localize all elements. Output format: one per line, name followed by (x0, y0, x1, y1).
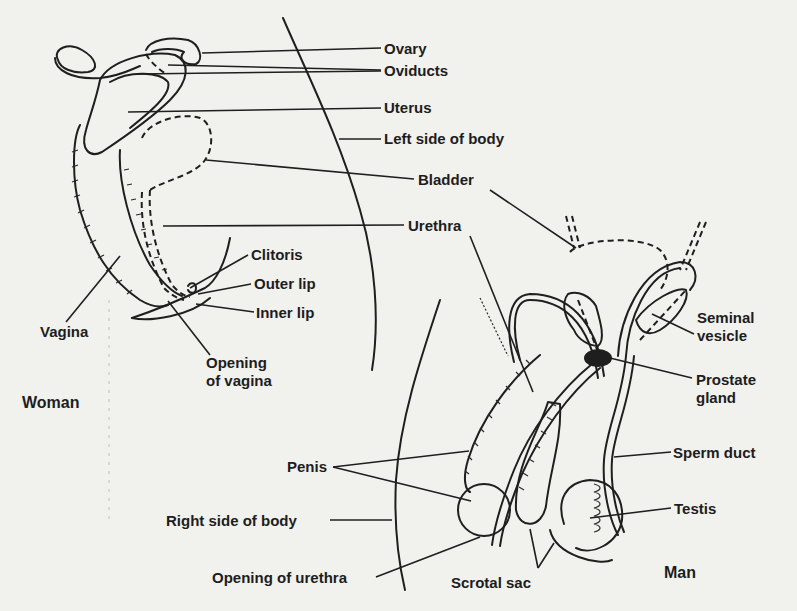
label-penis: Penis (287, 458, 327, 475)
right-ovary-shape (146, 38, 200, 64)
label-testis: Testis (674, 500, 716, 517)
label-seminal-vesicle-line1: Seminal (697, 309, 755, 326)
label-uterus: Uterus (384, 99, 432, 116)
leader-opening-urethra (376, 537, 480, 577)
leader-sperm-duct (614, 452, 671, 457)
epididymis-coil (594, 484, 600, 532)
sperm-duct-right-top (618, 262, 695, 356)
leader-urethra-man (470, 236, 533, 392)
group-label-man: Man (664, 564, 696, 581)
label-oviducts: Oviducts (384, 62, 448, 79)
label-vagina: Vagina (40, 323, 89, 340)
labels: Ovary Oviducts Uterus Left side of body … (40, 40, 756, 591)
sperm-duct-right-top-b (626, 268, 680, 356)
label-outer-lip: Outer lip (254, 275, 316, 292)
label-scrotal-sac: Scrotal sac (451, 574, 531, 591)
reproductive-diagram: Ovary Oviducts Uterus Left side of body … (0, 0, 797, 611)
leader-bladder-man (490, 190, 576, 248)
leader-oviducts-2 (138, 71, 381, 74)
leader-inner-lip (196, 304, 254, 312)
man-anatomy (395, 216, 706, 590)
label-sperm-duct: Sperm duct (673, 444, 756, 461)
label-prostate-gland-line1: Prostate (696, 371, 756, 388)
texture-fragment (480, 298, 508, 356)
label-opening-of-vagina-line1: Opening (206, 354, 267, 371)
woman-anatomy (55, 18, 376, 370)
left-ovary-shape (57, 46, 95, 72)
label-clitoris: Clitoris (251, 246, 303, 263)
prostate-shape (584, 349, 612, 367)
leader-scrotal-1 (530, 529, 538, 568)
label-opening-of-vagina-line2: of vagina (206, 372, 273, 389)
label-ovary: Ovary (384, 40, 427, 57)
label-bladder: Bladder (418, 171, 474, 188)
woman-urethra-inner (142, 192, 184, 300)
leader-urethra-woman (163, 225, 404, 226)
label-prostate-gland-line2: gland (696, 389, 736, 406)
label-inner-lip: Inner lip (256, 304, 314, 321)
uterus-inner (110, 74, 168, 128)
label-urethra: Urethra (408, 217, 462, 234)
leader-penis-1 (333, 451, 469, 467)
leader-oviducts-1 (168, 65, 381, 70)
leader-testis (590, 508, 671, 518)
man-urethra-b (500, 368, 600, 546)
glans-shape (458, 484, 510, 536)
leader-outer-lip (198, 284, 251, 294)
leader-ovary (202, 48, 381, 53)
leader-vagina (66, 256, 120, 322)
vagina-ridges (72, 150, 132, 294)
label-left-side-of-body: Left side of body (384, 130, 505, 147)
group-label-woman: Woman (22, 394, 79, 411)
label-right-side-of-body: Right side of body (166, 512, 297, 529)
penis-upper-edge (465, 355, 540, 492)
oviduct-dashed (146, 54, 166, 74)
label-seminal-vesicle-line2: vesicle (697, 327, 747, 344)
label-opening-of-urethra: Opening of urethra (212, 569, 348, 586)
right-side-of-body-curve (395, 300, 440, 590)
woman-bladder-shape (142, 116, 211, 190)
leader-opening-vagina (168, 301, 210, 355)
woman-urethra-outer (150, 190, 190, 297)
leader-penis-2 (333, 467, 471, 501)
leader-bladder-woman (206, 160, 414, 179)
leader-clitoris (190, 255, 248, 288)
leader-uterus (128, 108, 381, 112)
leader-scrotal-2 (538, 543, 554, 568)
